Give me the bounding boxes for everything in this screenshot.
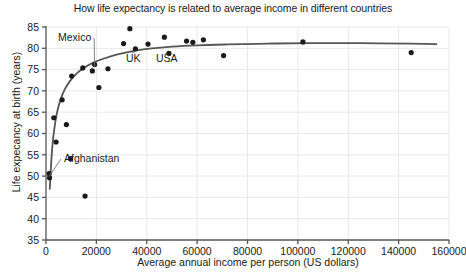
point-annotation-label: Mexico: [58, 31, 91, 43]
point-annotation-label: UK: [126, 52, 141, 64]
y-tick-label: 75: [27, 63, 39, 75]
data-point: [60, 97, 65, 102]
y-tick-label: 80: [27, 42, 39, 54]
x-tick-label: 80000: [233, 245, 262, 257]
data-point: [300, 39, 305, 44]
x-tick-label: 140000: [381, 245, 416, 257]
life-expectancy-scatter-chart: How life expectancy is related to averag…: [0, 0, 466, 275]
data-point: [64, 122, 69, 127]
plot-area: 3540455055606570758085 02000040000600008…: [0, 0, 466, 275]
data-point: [53, 139, 58, 144]
point-annotation-label: USA: [156, 52, 178, 64]
x-tick-label: 20000: [82, 245, 111, 257]
data-point: [201, 37, 206, 42]
x-axis-ticks: 0200004000060000800001000001200001400001…: [43, 240, 466, 257]
y-tick-label: 35: [27, 234, 39, 246]
x-tick-label: 160000: [431, 245, 466, 257]
y-tick-label: 60: [27, 127, 39, 139]
x-tick-label: 0: [43, 245, 49, 257]
data-point: [221, 53, 226, 58]
grid-lines: [46, 27, 449, 240]
y-tick-label: 55: [27, 149, 39, 161]
data-point: [133, 46, 138, 51]
x-tick-label: 40000: [132, 245, 161, 257]
data-point: [96, 85, 101, 90]
data-point: [162, 35, 167, 40]
data-point: [69, 73, 74, 78]
point-annotation-label: Afghanistan: [64, 152, 120, 164]
data-point: [80, 65, 85, 70]
trend-curve: [50, 43, 437, 189]
data-point: [409, 50, 414, 55]
data-point: [82, 194, 87, 199]
data-point: [51, 115, 56, 120]
x-tick-label: 100000: [280, 245, 315, 257]
data-point: [121, 41, 126, 46]
trend-line: [50, 43, 437, 189]
y-tick-label: 70: [27, 85, 39, 97]
data-point: [190, 40, 195, 45]
y-tick-label: 50: [27, 170, 39, 182]
data-point: [184, 38, 189, 43]
x-tick-label: 120000: [331, 245, 366, 257]
data-point: [105, 66, 110, 71]
data-point: [90, 68, 95, 73]
data-point: [127, 26, 132, 31]
data-point: [145, 41, 150, 46]
y-tick-label: 40: [27, 213, 39, 225]
y-tick-label: 85: [27, 21, 39, 33]
y-tick-label: 45: [27, 191, 39, 203]
y-tick-label: 65: [27, 106, 39, 118]
x-tick-label: 60000: [183, 245, 212, 257]
y-axis-ticks: 3540455055606570758085: [27, 21, 46, 246]
